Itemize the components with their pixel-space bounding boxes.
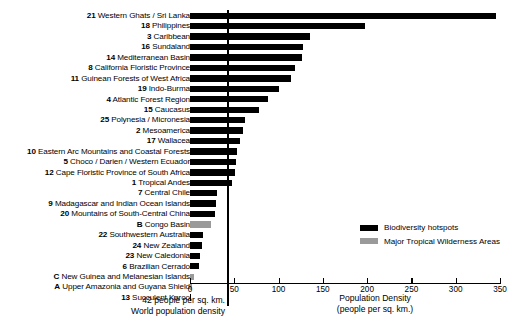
bar — [190, 75, 291, 81]
bar-row-name: Indo-Burma — [147, 84, 190, 93]
bar-row-name: Central Chile — [142, 188, 190, 197]
bar-row-label: 10 Eastern Arc Mountains and Coastal For… — [27, 147, 190, 157]
legend-swatch-gray — [360, 238, 378, 244]
bar-row: 17 Wallacea — [0, 136, 518, 146]
x-tick — [456, 278, 457, 284]
bar-row-name: New Caledonia — [134, 251, 190, 260]
bar-row-label: 17 Wallacea — [147, 136, 190, 146]
bar-row-code: 20 — [60, 209, 69, 218]
bar-row-name: New Guinea and Melanesian Islands — [59, 272, 190, 281]
bar — [190, 117, 245, 123]
bar-row: C New Guinea and Melanesian Islands — [0, 272, 518, 282]
bar-row-label: 18 Philippines — [141, 21, 190, 31]
bar — [190, 200, 216, 206]
legend-item: Biodiversity hotspots — [360, 221, 500, 235]
bar-row-code: 12 — [45, 168, 54, 177]
bar-row-name: Southwestern Australia — [107, 230, 190, 239]
plot-area: 21 Western Ghats / Sri Lanka18 Philippin… — [0, 0, 518, 331]
bar-row: 11 Guinean Forests of West Africa — [0, 74, 518, 84]
x-axis-title-line2: (people per sq. km.) — [300, 304, 450, 315]
bar-row: 8 California Floristic Province — [0, 63, 518, 73]
x-tick — [323, 278, 324, 284]
bar-row: 5 Choco / Darien / Western Ecuador — [0, 157, 518, 167]
bar-row-code: 23 — [125, 251, 134, 260]
bar-row-code: 14 — [106, 53, 115, 62]
bar — [190, 65, 295, 71]
x-tick — [500, 278, 501, 284]
bar-row-label: 16 Sundaland — [141, 42, 190, 52]
bar-row-name: Madagascar and Indian Ocean Islands — [53, 199, 190, 208]
bar-row-label: 14 Mediterranean Basin — [106, 53, 190, 63]
bar-row-label: 8 California Floristic Province — [88, 63, 190, 73]
legend-item: Major Tropical Wilderness Areas — [360, 235, 500, 249]
legend-label: Major Tropical Wilderness Areas — [384, 235, 500, 249]
bar — [190, 159, 236, 165]
bar-row: 14 Mediterranean Basin — [0, 53, 518, 63]
bar — [190, 138, 240, 144]
bar-row-label: 23 New Caledonia — [125, 251, 190, 261]
bar-row: 18 Philippines — [0, 21, 518, 31]
bar-row-name: Brazilian Cerrado — [127, 262, 190, 271]
bar-rows: 21 Western Ghats / Sri Lanka18 Philippin… — [0, 11, 518, 303]
x-tick — [367, 278, 368, 284]
bar-row-code: 10 — [27, 147, 36, 156]
bar — [190, 107, 259, 113]
bar-row: 15 Caucasus — [0, 105, 518, 115]
bar-row-label: 1 Tropical Andes — [132, 178, 190, 188]
bar-row: 3 Caribbean — [0, 32, 518, 42]
bar-row-label: 19 Indo-Burma — [138, 84, 190, 94]
bar-row: 12 Cape Floristic Province of South Afri… — [0, 168, 518, 178]
x-tick-label: 50 — [230, 285, 239, 294]
bar-row-name: Polynesia / Micronesia — [109, 115, 190, 124]
bar — [190, 33, 310, 39]
bar-row-label: 22 Southwestern Australia — [98, 230, 190, 240]
bar-row-code: 21 — [87, 11, 96, 20]
bar-row-label: 24 New Zealand — [132, 241, 190, 251]
x-tick — [234, 278, 235, 284]
bar-row-name: Mesoamerica — [140, 126, 190, 135]
bar — [190, 148, 237, 154]
bar-row-label: A Upper Amazonia and Guyana Shield — [54, 282, 190, 292]
bar-row-name: Eastern Arc Mountains and Coastal Forest… — [36, 147, 190, 156]
bar-row: 23 New Caledonia — [0, 251, 518, 261]
bar-row-name: Cape Floristic Province of South Africa — [54, 168, 190, 177]
x-axis-title: Population Density (people per sq. km.) — [300, 293, 450, 315]
bar-row: 16 Sundaland — [0, 42, 518, 52]
bar-row: 25 Polynesia / Micronesia — [0, 115, 518, 125]
bar-row-name: Sundaland — [150, 42, 190, 51]
bar-row-name: Guinean Forests of West Africa — [79, 74, 190, 83]
bar-row-label: 15 Caucasus — [144, 105, 190, 115]
bar-row: 19 Indo-Burma — [0, 84, 518, 94]
bar-row: 21 Western Ghats / Sri Lanka — [0, 11, 518, 21]
bar-row-code: 15 — [144, 105, 153, 114]
bar-row-label: 3 Caribbean — [147, 32, 190, 42]
bar-row-label: 11 Guinean Forests of West Africa — [71, 74, 190, 84]
bar-row-name: California Floristic Province — [93, 63, 190, 72]
bar-row-name: Caribbean — [151, 32, 190, 41]
bar — [190, 127, 243, 133]
world-density-caption: World population density — [20, 306, 225, 317]
bar — [190, 54, 302, 60]
bar-row: 20 Mountains of South-Central China — [0, 209, 518, 219]
bar-row: 6 Brazilian Cerrado — [0, 262, 518, 272]
x-axis-title-line1: Population Density — [300, 293, 450, 304]
world-density-annotation: 42 people per sq. km. World population d… — [20, 295, 225, 317]
bar — [190, 96, 268, 102]
bar-row-label: C New Guinea and Melanesian Islands — [54, 272, 190, 282]
bar — [190, 86, 279, 92]
bar-row: 7 Central Chile — [0, 188, 518, 198]
bar-row-name: Congo Basin — [143, 220, 190, 229]
bar-row-name: Western Ghats / Sri Lanka — [96, 11, 190, 20]
world-density-value: 42 people per sq. km. — [20, 295, 225, 306]
bar-row-label: 20 Mountains of South-Central China — [60, 209, 190, 219]
bar-row-code: 19 — [138, 84, 147, 93]
bar — [190, 190, 217, 196]
bar-row-label: 21 Western Ghats / Sri Lanka — [87, 11, 190, 21]
bar — [190, 242, 202, 248]
bar-row: 4 Atlantic Forest Region — [0, 95, 518, 105]
bar-row-name: Choco / Darien / Western Ecuador — [68, 157, 190, 166]
chart-legend: Biodiversity hotspotsMajor Tropical Wild… — [360, 221, 500, 248]
bar — [190, 180, 232, 186]
x-tick — [411, 278, 412, 284]
bar-row-name: Mediterranean Basin — [115, 53, 190, 62]
